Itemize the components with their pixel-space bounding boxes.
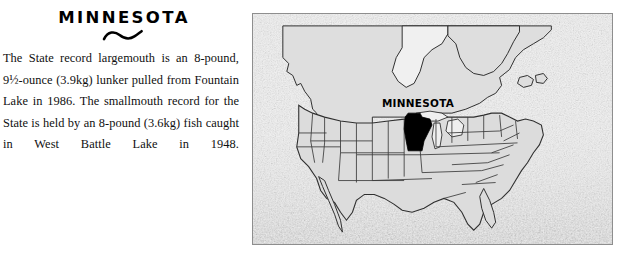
ornament-divider [3,28,239,48]
locator-map: MINNESOTA [252,13,613,245]
page-title: MINNESOTA [3,8,239,28]
article-text-column: MINNESOTA The State record largemouth is… [3,8,239,178]
map-state-label: MINNESOTA [382,97,454,109]
lake-huron-erie [446,119,464,137]
maritimes-island [518,75,534,87]
article-body: The State record largemouth is an 8-poun… [3,48,239,178]
tilde-swash-icon [101,29,145,45]
north-america-map-graphic: MINNESOTA [253,14,612,244]
page: MINNESOTA The State record largemouth is… [0,0,628,257]
